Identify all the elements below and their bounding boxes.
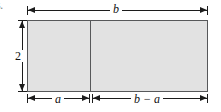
arrow-up-icon bbox=[19, 21, 25, 28]
arrow-right-icon bbox=[200, 7, 207, 13]
arrow-right-icon bbox=[82, 95, 89, 101]
figure-container: 5. b 2 a b − a bbox=[0, 0, 221, 112]
rectangle-shape bbox=[27, 20, 208, 92]
dimension-tick-left-bottom bbox=[18, 91, 27, 92]
dimension-tick-top-right bbox=[207, 6, 208, 15]
dimension-label-2: 2 bbox=[12, 50, 24, 62]
arrow-left-icon bbox=[93, 95, 100, 101]
dimension-tick-bottom-bma-right bbox=[207, 94, 208, 103]
dimension-label-b: b bbox=[110, 3, 122, 15]
figure-number: 5. bbox=[0, 2, 3, 11]
dimension-label-b-minus-a: b − a bbox=[131, 93, 163, 105]
arrow-left-icon bbox=[28, 7, 35, 13]
vertical-divider bbox=[90, 20, 91, 92]
arrow-left-icon bbox=[28, 95, 35, 101]
arrow-right-icon bbox=[200, 95, 207, 101]
dimension-tick-bottom-a-right bbox=[89, 94, 90, 103]
arrow-down-icon bbox=[19, 84, 25, 91]
dimension-label-a: a bbox=[52, 93, 64, 105]
